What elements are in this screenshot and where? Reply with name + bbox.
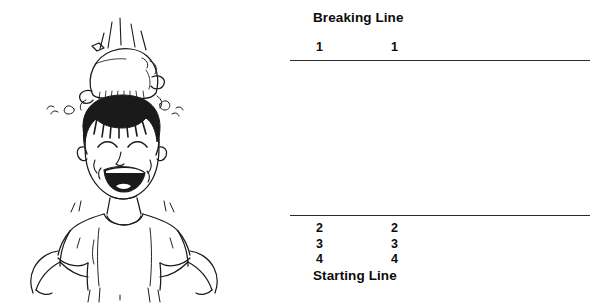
- page-root: Breaking Line 1 1 2 2 3 3 4 4 Starting L…: [0, 0, 606, 306]
- nose: [116, 152, 124, 166]
- mouth: [99, 167, 150, 192]
- starting-row-3-right-number: 4: [391, 252, 409, 266]
- starting-row-1-left-number: 2: [316, 221, 334, 235]
- starting-line-label: Starting Line: [313, 268, 397, 283]
- illustration-panel: [0, 0, 290, 306]
- eyes: [98, 142, 147, 147]
- starting-line-rule: [290, 215, 590, 216]
- breaking-row-right-number: 1: [391, 40, 409, 54]
- breaking-row-left-number: 1: [316, 40, 334, 54]
- tshirt: [58, 214, 190, 290]
- breaking-line-rule: [290, 60, 590, 61]
- starting-row-3-left-number: 4: [316, 252, 334, 266]
- chin: [110, 196, 137, 199]
- lower-garment-strokes: [88, 288, 160, 302]
- right-arm: [160, 251, 217, 294]
- left-arm: [31, 251, 88, 294]
- hair: [83, 95, 160, 155]
- shoulder-motion-marks: [71, 201, 174, 212]
- starting-row-1-right-number: 2: [391, 221, 409, 235]
- starting-row-2-left-number: 3: [316, 237, 334, 251]
- laughing-child-beanbag-illustration: [0, 0, 290, 306]
- motion-lines-top: [100, 18, 146, 50]
- starting-row-2-right-number: 3: [391, 237, 409, 251]
- lines-diagram-panel: Breaking Line 1 1 2 2 3 3 4 4 Starting L…: [288, 0, 606, 306]
- breaking-line-label: Breaking Line: [313, 10, 404, 25]
- beanbag-shape: [80, 43, 165, 103]
